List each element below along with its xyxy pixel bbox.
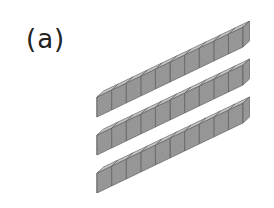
ten-rods-diagram	[0, 0, 274, 208]
cube-side-face	[97, 90, 112, 117]
cube-side-face	[97, 128, 112, 155]
cube-side-face	[97, 166, 112, 193]
